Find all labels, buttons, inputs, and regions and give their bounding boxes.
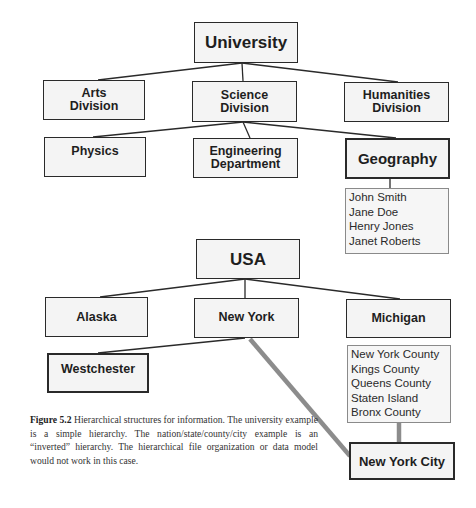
node-engineering-department: Engineering Department: [193, 138, 298, 178]
county-list: New York County Kings County Queens Coun…: [347, 345, 451, 423]
figure-canvas: University Arts Division Science Divisio…: [0, 0, 476, 508]
figure-caption: Figure 5.2 Hierarchical structures for i…: [30, 413, 318, 467]
caption-text: Hierarchical structures for information.…: [30, 414, 318, 466]
node-new-york: New York: [194, 298, 299, 338]
list-item: Jane Doe: [349, 205, 448, 220]
node-arts-division: Arts Division: [43, 80, 145, 120]
node-science-division: Science Division: [192, 81, 297, 122]
node-geography: Geography: [345, 138, 450, 179]
list-item: Kings County: [351, 362, 450, 377]
list-item: Queens County: [351, 376, 450, 391]
list-item: Bronx County: [351, 405, 450, 420]
caption-label: Figure 5.2: [30, 414, 71, 425]
node-physics: Physics: [44, 137, 146, 177]
node-university: University: [194, 22, 298, 63]
node-westchester: Westchester: [47, 353, 149, 393]
geography-people-list: John Smith Jane Doe Henry Jones Janet Ro…: [345, 188, 449, 254]
list-item: Henry Jones: [349, 219, 448, 234]
list-item: New York County: [351, 347, 450, 362]
node-alaska: Alaska: [45, 297, 148, 337]
node-humanities-division: Humanities Division: [344, 82, 449, 122]
list-item: John Smith: [349, 190, 448, 205]
node-new-york-city: New York City: [349, 442, 455, 480]
node-usa: USA: [196, 239, 300, 279]
list-item: Staten Island: [351, 391, 450, 406]
list-item: Janet Roberts: [349, 234, 448, 249]
node-michigan: Michigan: [346, 299, 451, 338]
